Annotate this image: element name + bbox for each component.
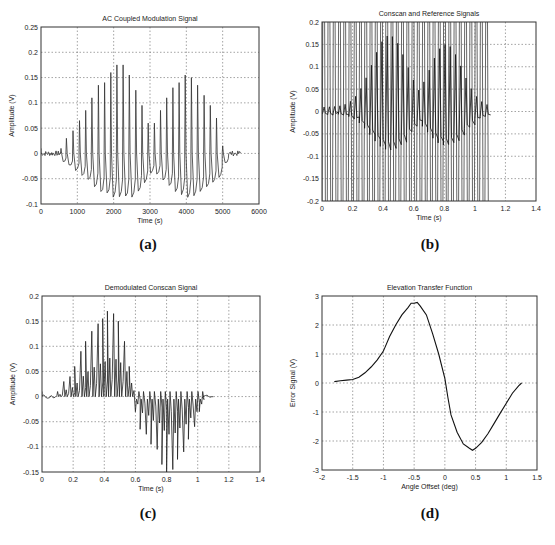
y-tick-label: -0.1 [26,201,38,208]
x-tick-label: -2 [319,474,325,481]
x-tick-label: 0 [443,474,447,481]
x-tick-label: -1.5 [347,474,359,481]
chart-d: -2-1.5-1-0.500.511.5-3-2-10123Elevation … [278,270,555,498]
x-tick-label: 1 [504,474,508,481]
y-tick-label: 0.1 [29,343,39,350]
x-tick-label: 1.2 [501,205,511,212]
x-tick-label: 0.2 [68,476,78,483]
chart-title: Elevation Transfer Function [387,284,472,291]
x-tick-label: 0.6 [409,205,419,212]
y-tick-label: 0.2 [28,49,38,56]
y-axis-label: Error Signal (V) [289,359,297,407]
x-tick-label: 5000 [215,208,231,215]
y-tick-label: 0 [35,393,39,400]
y-tick-label: 0 [34,150,38,157]
y-tick-label: -0.1 [27,443,39,450]
y-tick-label: 0 [315,108,319,115]
y-tick-label: -1 [313,409,319,416]
x-tick-label: 0 [39,208,43,215]
y-tick-label: -0.2 [307,198,319,205]
y-tick-label: 0.15 [25,318,39,325]
y-tick-label: 0.15 [305,41,319,48]
chart-c: 00.20.40.60.811.21.4-0.15-0.1-0.0500.050… [0,270,278,498]
y-tick-label: 0.1 [309,63,319,70]
chart-a: 0100020003000400050006000-0.1-0.0500.050… [0,0,278,228]
y-axis-label: Amplitude (V) [9,363,17,405]
y-tick-label: 0.05 [25,368,39,375]
chart-b: 00.20.40.60.811.21.4-0.2-0.15-0.1-0.0500… [278,0,555,228]
x-tick-label: 1.2 [224,476,234,483]
x-tick-label: 0.4 [378,205,388,212]
y-tick-label: -3 [313,467,319,474]
x-axis-label: Time (s) [138,485,163,493]
x-axis-label: Time (s) [416,214,441,222]
y-tick-label: 3 [315,293,319,300]
x-tick-label: 0.2 [348,205,358,212]
y-tick-label: -0.05 [23,418,39,425]
x-tick-label: 1.4 [255,476,265,483]
x-tick-label: 6000 [251,208,267,215]
sublabel-b: (b) [400,236,460,253]
chart-title: AC Coupled Modulation Signal [102,15,198,23]
x-tick-label: 2000 [106,208,122,215]
y-tick-label: 0.05 [305,86,319,93]
y-tick-label: -0.05 [22,175,38,182]
x-tick-label: 0.8 [162,476,172,483]
x-tick-label: 1.4 [531,205,541,212]
x-tick-label: 3000 [142,208,158,215]
y-axis-label: Amplitude (V) [289,90,297,132]
x-tick-label: 1 [196,476,200,483]
x-tick-label: 0.6 [131,476,141,483]
chart-title: Conscan and Reference Signals [379,10,480,18]
y-tick-label: -0.15 [23,469,39,476]
y-tick-label: 0 [315,380,319,387]
sublabel-c: (c) [118,505,178,522]
x-tick-label: -1 [380,474,386,481]
y-tick-label: 0.25 [24,24,38,31]
y-tick-label: -2 [313,438,319,445]
x-tick-label: 0.4 [99,476,109,483]
sublabel-d: (d) [400,505,460,522]
x-tick-label: -0.5 [408,474,420,481]
x-tick-label: 0 [40,476,44,483]
y-tick-label: -0.1 [307,153,319,160]
y-tick-label: 0.2 [309,19,319,26]
x-tick-label: 0.8 [439,205,449,212]
y-tick-label: 1 [315,351,319,358]
x-tick-label: 0.5 [471,474,481,481]
chart-title: Demodulated Conscan Signal [105,284,198,292]
x-tick-label: 1 [473,205,477,212]
y-tick-label: 0.1 [28,99,38,106]
x-tick-label: 1.5 [532,474,542,481]
y-tick-label: 0.15 [24,74,38,81]
x-tick-label: 1000 [70,208,86,215]
y-tick-label: 2 [315,322,319,329]
y-tick-label: -0.15 [303,175,319,182]
y-tick-label: -0.05 [303,130,319,137]
x-tick-label: 0 [320,205,324,212]
y-tick-label: 0.05 [24,125,38,132]
y-axis-label: Amplitude (V) [8,94,16,136]
x-axis-label: Time (s) [137,217,162,225]
sublabel-a: (a) [118,236,178,253]
x-tick-label: 4000 [179,208,195,215]
y-tick-label: 0.2 [29,293,39,300]
x-axis-label: Angle Offset (deg) [401,483,458,491]
